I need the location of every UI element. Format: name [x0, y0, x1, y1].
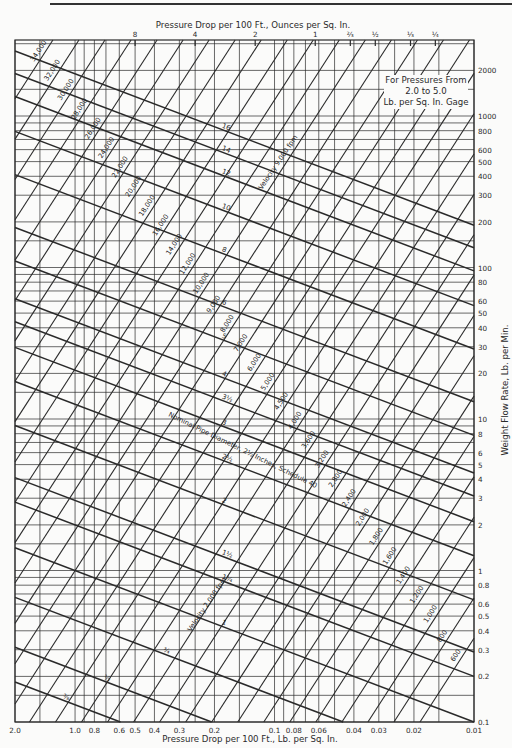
x2-tick-label: 2	[253, 30, 258, 39]
velocity-line	[29, 40, 469, 722]
pipe-label: 1	[221, 619, 228, 628]
velocity-label: 1,200	[408, 584, 425, 605]
y-tick-label: 0.4	[478, 627, 490, 636]
velocity-line	[15, 40, 105, 179]
x2-tick-label: 8	[133, 30, 138, 39]
pressure-note: For Pressures From 2.0 to 5.0 Lb. per Sq…	[383, 75, 468, 109]
x-tick-label: 2.0	[9, 726, 21, 735]
note-line-3: Lb. per Sq. In. Gage	[383, 97, 468, 107]
velocity-label: 1,000	[422, 604, 439, 625]
velocity-label: 3,600	[300, 429, 317, 450]
velocity-label: 9,000	[205, 294, 222, 315]
pipe-label: 6	[221, 298, 228, 307]
y-tick-label: 100	[478, 264, 492, 273]
y-tick-label: 40	[478, 324, 488, 333]
y-axis-ticks: 0.10.20.30.40.50.60.81234568102030405060…	[478, 66, 497, 727]
velocity-label: 6,000	[246, 352, 263, 373]
velocity-label: 7,000	[232, 333, 249, 354]
y-tick-label: 0.1	[478, 718, 489, 727]
y-tick-label: 60	[478, 297, 488, 306]
note-line-1: For Pressures From	[385, 75, 466, 85]
chart: 1614121086543½32½21½1¼1¾½⅜34,00032,00030…	[0, 0, 512, 748]
y-tick-label: 2000	[478, 66, 497, 75]
y-tick-label: 6	[478, 449, 483, 458]
pipe-label: 10	[221, 202, 232, 213]
velocity-label: 4,500	[273, 391, 290, 412]
velocity-label: 8,000	[219, 313, 236, 334]
y-tick-label: 5	[478, 461, 483, 470]
x2-tick-label: ⅔	[347, 30, 354, 39]
x-tick-label: 0.02	[406, 726, 422, 735]
y-tick-label: 10	[478, 415, 488, 424]
y-tick-label: 0.3	[478, 646, 489, 655]
note-line-2: 2.0 to 5.0	[405, 86, 446, 96]
x-tick-label: 1.0	[69, 726, 81, 735]
y-tick-label: 800	[478, 127, 492, 136]
x-tick-label: 0.03	[371, 726, 387, 735]
velocity-label: 1,600	[381, 546, 398, 567]
y-tick-label: 0.6	[478, 600, 490, 609]
y-tick-label: 20	[478, 369, 488, 378]
pipe-label: 4	[221, 370, 228, 379]
x2-tick-label: 4	[193, 30, 198, 39]
velocity-label: 2,800	[327, 468, 344, 489]
x2-tick-label: ⅓	[407, 30, 414, 39]
velocity-label: 4,000	[286, 410, 303, 431]
velocity-label: 600	[449, 648, 463, 663]
velocity-line	[15, 40, 365, 583]
y-tick-label: 400	[478, 172, 492, 181]
y-tick-label: 600	[478, 146, 492, 155]
y-tick-label: 1000	[478, 112, 497, 121]
x2-tick-label: 1	[313, 30, 318, 39]
x2-tick-label: ½	[372, 30, 379, 39]
x-tick-label: 0.8	[89, 726, 101, 735]
velocity-line	[420, 638, 474, 722]
x-tick-label: 0.5	[129, 726, 140, 735]
y-tick-label: 3	[478, 494, 483, 503]
y-tick-label: 1	[478, 567, 483, 576]
y-tick-label: 0.5	[478, 612, 489, 621]
velocity-label: 2,000	[354, 507, 371, 528]
velocity-line	[264, 396, 474, 722]
y-tick-label: 200	[478, 218, 492, 227]
velocity-label: 5,000	[259, 371, 276, 392]
pipe-label: 2	[221, 496, 228, 505]
pipe-label: 1½	[221, 548, 234, 559]
pipe-label: 14	[221, 144, 232, 155]
y-axis-title: Weight Flow Rate, Lb. per Min.	[500, 325, 510, 456]
pipe-line	[15, 647, 212, 722]
velocity-line	[394, 598, 474, 722]
x2-tick-label: ¼	[432, 30, 439, 39]
pipe-label: 3½	[221, 393, 234, 404]
y-tick-label: 50	[478, 309, 488, 318]
x2-axis-title: Pressure Drop per 100 Ft., Ounces per Sq…	[156, 20, 350, 30]
velocity-line	[15, 40, 157, 260]
y-tick-label: 0.2	[478, 672, 489, 681]
velocity-line	[15, 40, 131, 220]
y-tick-label: 80	[478, 278, 488, 287]
y-tick-label: 500	[478, 158, 492, 167]
y-tick-label: 8	[478, 430, 483, 439]
y-tick-label: 300	[478, 191, 492, 200]
x-tick-label: 0.01	[466, 726, 482, 735]
velocity-line	[15, 40, 235, 381]
x-tick-label: 0.04	[346, 726, 362, 735]
y-tick-label: 30	[478, 343, 488, 352]
x-tick-label: 0.4	[149, 726, 161, 735]
y-tick-label: 4	[478, 475, 483, 484]
x-axis-title: Pressure Drop per 100 Ft., Lb. per Sq. I…	[162, 734, 337, 744]
velocity-line	[368, 558, 474, 722]
y-tick-label: 2	[478, 521, 483, 530]
y-tick-label: 0.8	[478, 581, 490, 590]
x-tick-label: 0.6	[114, 726, 126, 735]
pipe-label: 8	[221, 245, 228, 254]
velocity-note-high: Velocity 9,000 fpm	[257, 133, 300, 191]
